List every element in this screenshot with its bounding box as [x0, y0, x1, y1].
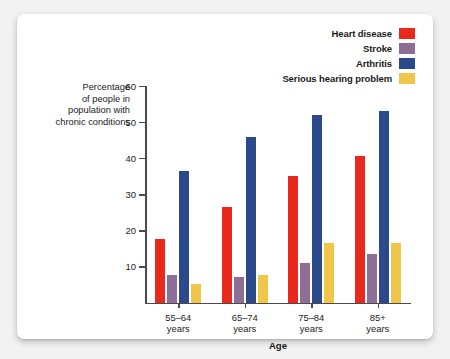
bar: [258, 275, 268, 302]
bar-group: 85+years: [345, 85, 412, 303]
x-axis-tick-label-line: 75–84: [298, 312, 324, 324]
x-axis-tick-label-line: years: [232, 323, 258, 335]
legend-color-swatch: [399, 28, 415, 39]
legend-label: Heart disease: [332, 28, 393, 39]
x-axis-tick: [311, 303, 312, 308]
legend-color-swatch: [399, 73, 415, 84]
y-axis-tick-label: 20: [125, 225, 136, 236]
bar: [246, 137, 256, 303]
x-axis-tick: [378, 303, 379, 308]
legend-item: Serious hearing problem: [282, 73, 415, 84]
bar: [191, 284, 201, 302]
x-axis-tick-label-line: 65–74: [232, 312, 258, 324]
bar: [312, 115, 322, 303]
x-axis-tick-label-line: years: [366, 323, 389, 335]
bar: [379, 111, 389, 302]
chart-card: Heart diseaseStrokeArthritisSerious hear…: [17, 14, 433, 339]
plot-area: 10203040506055–64years65–74years75–84yea…: [145, 86, 411, 304]
x-axis-title: Age: [145, 340, 411, 351]
y-axis-title: Percentageof people inpopulation withchr…: [45, 82, 130, 128]
legend-label: Serious hearing problem: [282, 73, 392, 84]
bar-group: 65–74years: [212, 85, 279, 303]
bar-group: 55–64years: [145, 85, 212, 303]
y-axis-title-line: population with: [45, 105, 130, 117]
bar: [324, 243, 334, 303]
x-axis-tick: [178, 303, 179, 308]
x-axis-tick-label-line: years: [165, 323, 191, 335]
legend-color-swatch: [399, 43, 415, 54]
x-axis-tick-label: 55–64years: [165, 312, 191, 335]
bar: [167, 275, 177, 302]
x-axis-line: [145, 303, 411, 305]
y-axis-tick-label: 50: [125, 117, 136, 128]
bar: [155, 239, 165, 302]
y-axis-tick-label: 40: [125, 153, 136, 164]
legend-color-swatch: [399, 58, 415, 69]
x-axis-tick-label-line: 85+: [366, 312, 389, 324]
legend-label: Arthritis: [356, 58, 392, 69]
y-axis-tick-label: 30: [125, 189, 136, 200]
chart-legend: Heart diseaseStrokeArthritisSerious hear…: [282, 28, 415, 84]
bar-group: 75–84years: [278, 85, 345, 303]
legend-label: Stroke: [363, 43, 392, 54]
x-axis-tick-label: 85+years: [366, 312, 389, 335]
y-axis-tick-label: 10: [125, 261, 136, 272]
x-axis-tick-label: 75–84years: [298, 312, 324, 335]
bar: [300, 263, 310, 303]
x-axis-tick-label-line: 55–64: [165, 312, 191, 324]
y-axis-title-line: chronic conditions: [45, 117, 130, 129]
x-axis-tick-label: 65–74years: [232, 312, 258, 335]
bar: [234, 277, 244, 302]
y-axis-title-line: of people in: [45, 94, 130, 106]
legend-item: Stroke: [363, 43, 415, 54]
bar: [355, 156, 365, 302]
legend-item: Heart disease: [332, 28, 416, 39]
bar: [288, 176, 298, 302]
bar: [222, 207, 232, 303]
bar: [179, 171, 189, 303]
bar: [391, 243, 401, 303]
legend-item: Arthritis: [356, 58, 415, 69]
x-axis-tick-label-line: years: [298, 323, 324, 335]
x-axis-tick: [245, 303, 246, 308]
y-axis-title-line: Percentage: [45, 82, 130, 94]
y-axis-tick-label: 60: [125, 81, 136, 92]
bar: [367, 254, 377, 303]
